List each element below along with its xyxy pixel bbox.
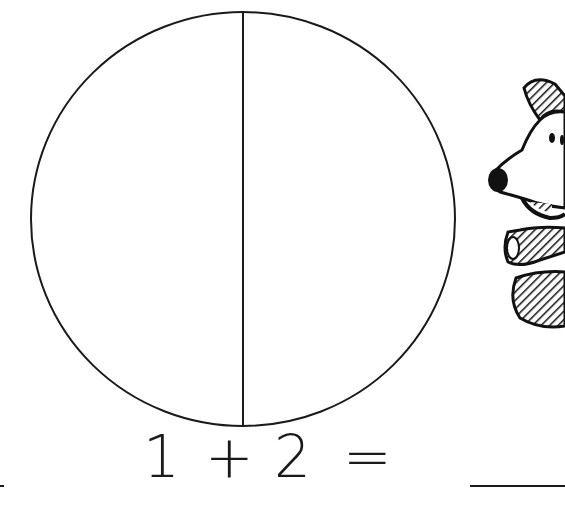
divided-circle: [31, 12, 455, 426]
equals-sign: =: [343, 428, 392, 486]
cartoon-dog-icon: [488, 80, 565, 327]
worksheet: 1 + 2 =: [0, 0, 565, 518]
addend-1: 1: [143, 428, 180, 486]
plus-operator: +: [205, 428, 254, 486]
addend-2: 2: [274, 428, 311, 486]
